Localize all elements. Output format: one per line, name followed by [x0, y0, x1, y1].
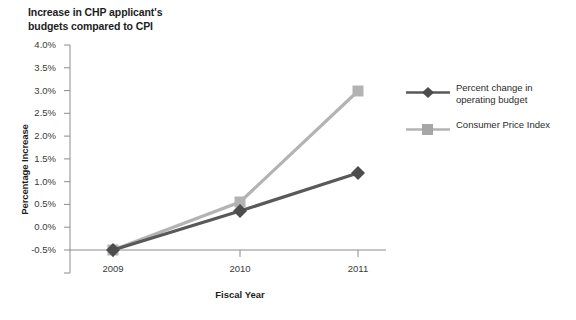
- legend-label-operating-budget-line-1: Percent change in: [456, 82, 533, 93]
- plot-area: [0, 0, 576, 320]
- data-point-cpi-2011: [353, 86, 364, 97]
- legend-label-consumer-price-index: Consumer Price Index: [456, 119, 568, 131]
- legend-marker-square-icon: [406, 123, 450, 136]
- data-point-budget-2011: [351, 166, 365, 180]
- legend-item-consumer-price-index: Consumer Price Index: [406, 119, 574, 141]
- series-line-consumer-price-index: [113, 91, 358, 250]
- legend-label-operating-budget-line-2: operating budget: [456, 94, 527, 105]
- legend-item-operating-budget: Percent change inoperating budget: [406, 82, 574, 106]
- legend-label-operating-budget: Percent change inoperating budget: [456, 82, 568, 106]
- chart-legend: Percent change inoperating budget Consum…: [406, 82, 574, 154]
- chart-container: Increase in CHP applicant's budgets comp…: [0, 0, 576, 320]
- legend-marker-diamond-icon: [406, 86, 450, 99]
